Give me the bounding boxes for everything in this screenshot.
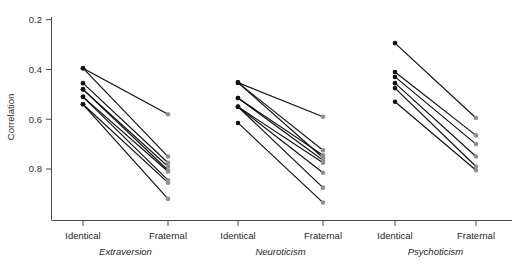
panel-series-psychoticism — [393, 41, 479, 173]
plot-canvas: 0.80.60.40.2 Correlation IdenticalFrater… — [0, 0, 517, 267]
data-point-identical — [236, 121, 241, 126]
twin-correlation-figure: 0.80.60.40.2 Correlation IdenticalFrater… — [0, 0, 517, 267]
data-point-identical — [393, 81, 398, 86]
panel-series-extraversion — [81, 66, 171, 201]
pair-line — [238, 83, 323, 117]
data-point-fraternal — [166, 154, 171, 159]
data-point-identical — [393, 86, 398, 91]
data-point-identical — [393, 100, 398, 105]
data-point-fraternal — [166, 112, 171, 117]
panel-label-psychoticism: Psychoticism — [408, 246, 464, 257]
data-point-identical — [236, 96, 241, 101]
data-point-identical — [81, 81, 86, 86]
x-tick-label-identical: Identical — [220, 230, 255, 241]
data-point-identical — [393, 75, 398, 80]
data-point-identical — [236, 80, 241, 85]
data-point-identical — [393, 70, 398, 75]
data-point-identical — [393, 41, 398, 46]
data-point-identical — [236, 104, 241, 109]
pair-line — [395, 88, 476, 166]
pair-line — [83, 97, 168, 180]
data-point-fraternal — [166, 197, 171, 202]
pair-line — [395, 102, 476, 170]
pair-line — [83, 89, 168, 170]
data-point-fraternal — [321, 153, 326, 158]
y-tick-group: 0.80.60.40.2 — [29, 14, 52, 174]
data-point-identical — [81, 66, 86, 71]
pair-line — [395, 72, 476, 135]
x-tick-label-fraternal: Fraternal — [304, 230, 342, 241]
data-point-identical — [81, 95, 86, 100]
x-tick-label-fraternal: Fraternal — [149, 230, 187, 241]
x-tick-group: IdenticalFraternalIdenticalFraternalIden… — [65, 221, 495, 242]
x-tick-label-identical: Identical — [65, 230, 100, 241]
y-tick-label: 0.6 — [29, 114, 42, 125]
panel-label-neuroticism: Neuroticism — [255, 246, 305, 257]
data-point-fraternal — [321, 114, 326, 119]
y-tick-label: 0.2 — [29, 14, 42, 25]
data-point-fraternal — [474, 154, 479, 159]
series-layer — [81, 41, 479, 205]
y-axis-title: Correlation — [5, 94, 16, 140]
pair-line — [395, 83, 476, 156]
data-point-fraternal — [474, 168, 479, 173]
data-point-fraternal — [321, 200, 326, 205]
data-point-fraternal — [321, 170, 326, 175]
data-point-fraternal — [166, 169, 171, 174]
data-point-fraternal — [474, 116, 479, 121]
y-axis-group: 0.80.60.40.2 Correlation — [5, 14, 52, 220]
pair-line — [395, 77, 476, 144]
pair-line — [395, 43, 476, 118]
data-point-identical — [81, 87, 86, 92]
pair-line — [83, 97, 168, 172]
data-point-fraternal — [321, 148, 326, 153]
pair-line — [238, 98, 323, 160]
data-point-fraternal — [474, 133, 479, 138]
x-tick-label-fraternal: Fraternal — [457, 230, 495, 241]
data-point-fraternal — [474, 142, 479, 147]
data-point-fraternal — [321, 160, 326, 165]
y-tick-label: 0.8 — [29, 163, 42, 174]
data-point-identical — [81, 102, 86, 107]
panel-series-neuroticism — [236, 80, 326, 205]
y-tick-label: 0.4 — [29, 64, 42, 75]
data-point-fraternal — [321, 185, 326, 190]
data-point-fraternal — [166, 180, 171, 185]
x-tick-label-identical: Identical — [377, 230, 412, 241]
x-axis-group: IdenticalFraternalIdenticalFraternalIden… — [52, 221, 513, 242]
panel-label-extraversion: Extraversion — [99, 246, 152, 257]
panel-labels-layer: ExtraversionNeuroticismPsychoticism — [99, 246, 463, 257]
